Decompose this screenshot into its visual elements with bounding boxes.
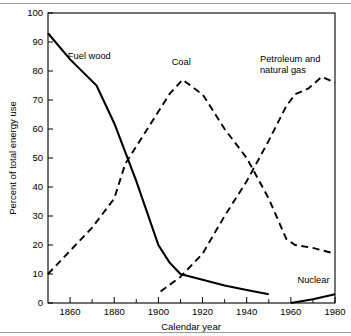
series-label-coal: Coal <box>172 57 191 67</box>
series-line-petroleum-and-natural-gas <box>161 77 335 292</box>
y-axis-title: Percent of total energy use <box>7 101 18 215</box>
series-label-petroleum-and-natural-gas: Petroleum andnatural gas <box>260 54 320 75</box>
x-tick-label: 1900 <box>148 306 169 317</box>
y-axis-tick-labels: 0102030405060708090100 <box>27 7 43 308</box>
series-line-fuel-wood <box>48 33 269 294</box>
x-tick-label: 1960 <box>280 306 301 317</box>
x-tick-label: 1920 <box>192 306 213 317</box>
y-tick-label: 70 <box>32 94 43 105</box>
series-label-nuclear: Nuclear <box>297 275 329 285</box>
x-tick-label: 1980 <box>324 306 345 317</box>
series-line-coal <box>48 80 335 274</box>
y-tick-label: 60 <box>32 123 43 134</box>
y-tick-label: 40 <box>32 181 43 192</box>
x-tick-label: 1860 <box>60 306 81 317</box>
y-tick-label: 80 <box>32 65 43 76</box>
y-tick-label: 90 <box>32 36 43 47</box>
y-tick-label: 50 <box>32 152 43 163</box>
y-tick-label: 10 <box>32 268 43 279</box>
x-tick-label: 1940 <box>236 306 257 317</box>
series-annotations: Fuel woodCoalPetroleum andnatural gasNuc… <box>68 51 330 284</box>
energy-use-line-chart: 0102030405060708090100 18601880190019201… <box>0 0 351 336</box>
x-tick-label: 1880 <box>104 306 125 317</box>
figure-container: 0102030405060708090100 18601880190019201… <box>0 0 351 336</box>
y-tick-label: 20 <box>32 239 43 250</box>
y-tick-label: 30 <box>32 210 43 221</box>
x-axis-title: Calendar year <box>161 321 221 332</box>
x-axis-tick-labels: 1860188019001920194019601980 <box>60 306 346 317</box>
y-axis-ticks <box>48 13 53 303</box>
y-tick-label: 0 <box>38 297 43 308</box>
y-tick-label: 100 <box>27 7 43 18</box>
series-label-fuel-wood: Fuel wood <box>68 51 111 61</box>
